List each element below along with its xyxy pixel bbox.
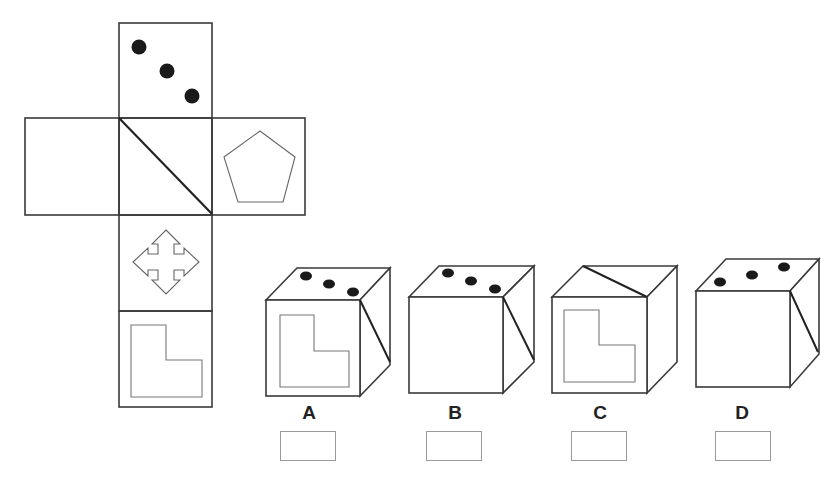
option-d-cube[interactable] [696,259,819,387]
option-a-label: A [289,402,329,424]
pentagon-icon [224,131,295,202]
option-d-answer-box[interactable] [715,431,771,461]
option-b-answer-box[interactable] [426,431,482,461]
option-d-label: D [722,402,762,424]
cube-net [25,23,305,407]
puzzle-canvas: A B C D [0,0,836,483]
option-a-answer-box[interactable] [280,431,336,461]
option-c-answer-box[interactable] [571,431,627,461]
option-c-cube[interactable] [552,266,677,393]
option-b-label: B [435,402,475,424]
diagonal-line-icon [119,118,212,214]
three-dots-icon [132,40,200,104]
four-way-arrow-icon [153,230,180,254]
net-face-left [25,118,119,215]
move-arrows-icon [133,230,199,294]
option-c-label: C [580,402,620,424]
l-shape-icon [131,325,202,397]
